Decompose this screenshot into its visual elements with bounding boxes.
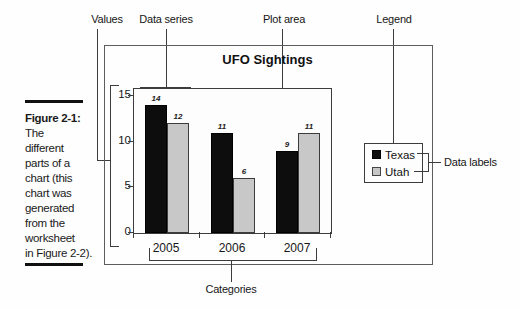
- categories-callout-line: [231, 260, 232, 282]
- caption-rule-bottom: [25, 263, 83, 266]
- bar-value-label: 11: [298, 122, 320, 131]
- bar-texas-2005: [145, 105, 167, 233]
- caption-rule-top: [25, 100, 83, 103]
- chart-title: UFO Sightings: [104, 52, 431, 67]
- y-axis-tick-label: 5: [105, 179, 131, 191]
- book-figure-page: Figure 2-1: The different parts of a cha…: [0, 0, 521, 310]
- bar-value-label: 6: [233, 167, 255, 176]
- x-axis-tick: [133, 232, 134, 238]
- x-axis-category-label: 2006: [199, 241, 265, 255]
- caption-line: chart was: [25, 187, 100, 202]
- data-labels-tick-texas: [417, 153, 428, 154]
- bar-value-label: 9: [276, 140, 298, 149]
- legend: Texas Utah: [364, 143, 423, 183]
- legend-item-texas: Texas: [372, 148, 422, 162]
- plot-area: 1412116911: [133, 88, 332, 234]
- bar-texas-2007: [276, 151, 298, 233]
- legend-label-utah: Utah: [385, 166, 409, 178]
- categories-label: Categories: [191, 283, 271, 295]
- caption-line: generated: [25, 202, 100, 217]
- y-axis-tick: [128, 141, 133, 142]
- x-axis-tick: [264, 232, 265, 238]
- bar-value-label: 14: [145, 94, 167, 103]
- values-callout-line-vertical: [97, 29, 98, 160]
- legend-label: Legend: [369, 13, 419, 27]
- x-axis-tick: [330, 232, 331, 238]
- bar-value-label: 11: [211, 122, 233, 131]
- bar-value-label: 12: [167, 112, 189, 121]
- legend-swatch-utah: [372, 167, 381, 176]
- bar-utah-2006: [233, 178, 255, 233]
- y-axis-tick: [128, 186, 133, 187]
- y-axis-tick: [128, 95, 133, 96]
- x-axis-category-label: 2007: [264, 241, 330, 255]
- data-labels-tick-utah: [414, 171, 428, 172]
- caption-line: different: [25, 142, 100, 157]
- y-axis-tick-label: 15: [105, 88, 131, 100]
- caption-line: chart (this: [25, 172, 100, 187]
- bar-texas-2006: [211, 133, 233, 233]
- y-axis-tick-label: 0: [105, 225, 131, 237]
- x-axis-tick: [199, 232, 200, 238]
- caption-line: The: [25, 127, 100, 142]
- legend-label-texas: Texas: [385, 149, 415, 161]
- bar-utah-2007: [298, 133, 320, 233]
- values-label: Values: [84, 13, 130, 27]
- bar-utah-2005: [167, 123, 189, 233]
- data-series-label: Data series: [131, 13, 201, 27]
- data-labels-connector: [428, 162, 441, 163]
- data-labels-label: Data labels: [444, 156, 516, 168]
- plot-area-label: Plot area: [254, 13, 314, 27]
- caption-line: in Figure 2-2).: [25, 247, 100, 262]
- y-axis-tick-label: 10: [105, 134, 131, 146]
- x-axis-category-label: 2005: [133, 241, 199, 255]
- legend-swatch-texas: [372, 150, 381, 159]
- caption-line: from the: [25, 217, 100, 232]
- caption-figure-number: Figure 2-1:: [25, 112, 95, 124]
- caption-line: parts of a: [25, 157, 100, 172]
- caption-line: worksheet: [25, 232, 100, 247]
